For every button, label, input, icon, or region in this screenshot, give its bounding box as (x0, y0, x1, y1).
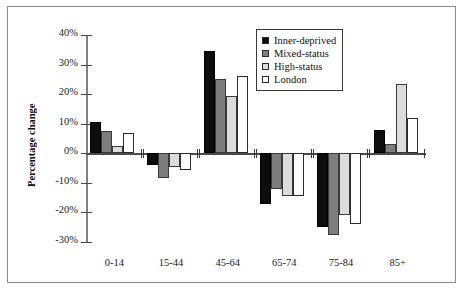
y-tick-label: -10% (32, 175, 78, 186)
legend-item: High-status (262, 60, 336, 73)
bar (180, 153, 191, 169)
bar (237, 76, 248, 153)
y-tick-label: 30% (32, 57, 78, 68)
bar (226, 96, 237, 154)
bar (204, 51, 215, 153)
bar (271, 153, 282, 188)
bar (317, 153, 328, 227)
bar (396, 84, 407, 153)
bar (293, 153, 304, 196)
legend-swatch-icon (262, 50, 269, 57)
bar (215, 79, 226, 153)
bar (169, 153, 180, 166)
x-axis-label: 45-64 (199, 257, 256, 268)
legend-label: High-status (274, 61, 322, 72)
bar (101, 131, 112, 153)
legend-item: Mixed-status (262, 47, 336, 60)
chart-frame: Percentage change 40%30%20%10%0%-10%-20%… (7, 6, 456, 283)
bar (158, 153, 169, 178)
bar (282, 153, 293, 196)
bar (90, 122, 101, 153)
chart-legend: Inner-deprivedMixed-statusHigh-statusLon… (256, 29, 343, 91)
bar (374, 130, 385, 154)
bar (112, 146, 123, 153)
bar (385, 144, 396, 153)
bar (407, 118, 418, 153)
legend-swatch-icon (262, 63, 269, 70)
bar (147, 153, 158, 165)
x-axis-label: 85+ (369, 257, 426, 268)
y-tick-mark (81, 242, 92, 243)
legend-label: Mixed-status (274, 48, 329, 59)
bar (350, 153, 361, 224)
x-axis-label: 65-74 (256, 257, 313, 268)
y-tick-label: 0% (32, 145, 78, 156)
y-tick-label: 20% (32, 86, 78, 97)
y-tick-label: 10% (32, 116, 78, 127)
bar (123, 133, 134, 154)
bar (328, 153, 339, 234)
legend-swatch-icon (262, 37, 269, 44)
x-axis-label: 75-84 (313, 257, 370, 268)
x-axis-label: 15-44 (143, 257, 200, 268)
y-tick-label: -30% (32, 234, 78, 245)
bar (339, 153, 350, 215)
chart-figure: Percentage change 40%30%20%10%0%-10%-20%… (0, 0, 463, 290)
y-tick-label: 40% (32, 27, 78, 38)
legend-item: Inner-deprived (262, 34, 336, 47)
y-tick-label: -20% (32, 204, 78, 215)
legend-item: London (262, 73, 336, 86)
bar (260, 153, 271, 203)
legend-label: London (274, 74, 307, 85)
legend-label: Inner-deprived (274, 35, 336, 46)
legend-swatch-icon (262, 76, 269, 83)
x-axis-label: 0-14 (86, 257, 143, 268)
